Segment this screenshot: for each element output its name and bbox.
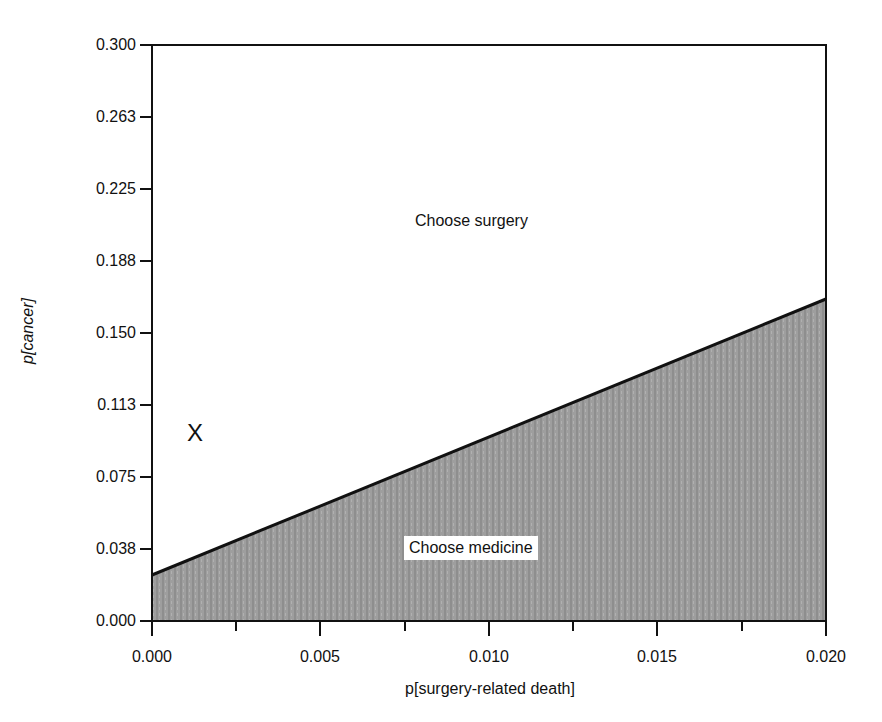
x-tick-label: 0.015: [617, 648, 697, 666]
x-tick-label: 0.005: [280, 648, 360, 666]
y-axis-ticks: [140, 45, 152, 621]
y-axis-title: p[cancer]: [19, 291, 37, 371]
y-tick-label: 0.113: [76, 396, 136, 414]
x-axis-ticks: [152, 621, 826, 636]
x-tick-label: 0.020: [786, 648, 866, 666]
region-label-medicine: Choose medicine: [404, 536, 538, 560]
y-tick-label: 0.300: [76, 36, 136, 54]
x-marker: X: [187, 419, 203, 447]
y-tick-label: 0.150: [76, 324, 136, 342]
x-tick-label: 0.010: [449, 648, 529, 666]
x-axis-title: p[surgery-related death]: [300, 680, 680, 698]
y-tick-label: 0.225: [76, 180, 136, 198]
x-tick-label: 0.000: [112, 648, 192, 666]
y-tick-label: 0.075: [76, 468, 136, 486]
y-tick-label: 0.263: [76, 108, 136, 126]
y-tick-label: 0.000: [76, 612, 136, 630]
y-tick-label: 0.038: [76, 540, 136, 558]
y-tick-label: 0.188: [76, 252, 136, 270]
medicine-region: [152, 299, 826, 621]
region-label-surgery: Choose surgery: [415, 212, 528, 230]
